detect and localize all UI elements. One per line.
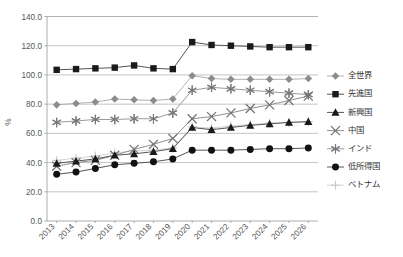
data-point-circle [266,145,273,152]
legend-item-先進国[interactable]: 先進国 [327,88,372,98]
data-point-diamond [246,76,254,84]
data-point-plus [331,181,340,190]
legend-item-全世界[interactable]: 全世界 [327,70,373,80]
series-ベトナム [52,117,313,165]
data-point-circle [111,161,118,168]
cropped-header-text [0,0,403,5]
legend-label: 先進国 [348,88,372,98]
data-point-square [286,44,292,50]
data-point-diamond [53,101,61,109]
data-point-square [247,43,253,49]
x-tick-label: 2014 [57,222,77,242]
data-point-x [246,104,255,113]
data-point-diamond [285,76,293,84]
legend-label: インド [348,143,372,153]
data-point-circle [208,147,215,154]
data-point-diamond [266,76,274,84]
y-axis-title: % [4,118,13,125]
legend-item-新興国[interactable]: 新興国 [327,107,372,117]
x-tick-label: 2022 [212,222,232,242]
data-point-diamond [111,95,119,103]
x-tick-label: 2016 [95,222,115,242]
x-tick-label: 2018 [134,222,154,242]
data-point-square [189,39,195,45]
data-point-square [112,64,118,70]
y-tick-label: 140.0 [22,13,43,22]
data-point-diamond [227,76,235,84]
legend-item-低所得国[interactable]: 低所得国 [327,161,380,171]
x-tick-label: 2024 [250,222,270,242]
legend-label: 新興国 [348,107,372,117]
legend-label: 全世界 [348,70,373,80]
data-point-x [265,100,274,109]
x-tick-label: 2023 [231,222,251,242]
data-point-circle [189,147,196,154]
data-point-diamond [208,75,216,83]
legend-item-中国[interactable]: 中国 [327,125,364,135]
series-新興国 [53,118,313,167]
data-point-square [92,65,98,71]
data-point-square [73,66,79,72]
y-axis-tick-labels: 140.0120.0100.080.060.040.020.00.0 [22,13,43,227]
data-point-circle [53,171,60,178]
data-point-circle [247,146,254,153]
line-chart: 140.0120.0100.080.060.040.020.00.0 20132… [0,0,403,257]
data-point-square [305,44,311,50]
data-point-x [168,134,177,143]
y-tick-label: 0.0 [31,217,43,226]
x-tick-label: 2021 [192,222,212,242]
y-tick-label: 40.0 [26,159,42,168]
data-point-square [131,62,137,68]
data-point-circle [92,165,99,172]
data-point-square [208,42,214,48]
series-先進国 [53,39,311,73]
data-point-square [170,66,176,72]
x-tick-label: 2020 [173,222,193,242]
legend-item-インド[interactable]: インド [327,143,372,154]
data-point-diamond [130,96,138,104]
data-point-diamond [305,75,313,83]
y-tick-label: 100.0 [22,71,43,80]
data-point-circle [332,164,339,171]
y-tick-label: 60.0 [26,129,42,138]
x-tick-label: 2026 [289,222,309,242]
data-point-diamond [150,97,158,105]
data-point-square [332,91,338,97]
data-point-x [226,108,235,117]
data-point-circle [150,158,157,165]
y-tick-label: 80.0 [26,100,42,109]
y-axis-title-text: % [4,118,13,125]
data-series-layer [52,39,313,178]
legend-item-ベトナム[interactable]: ベトナム [327,179,380,189]
data-point-circle [169,155,176,162]
series-インド [53,83,313,128]
x-axis-tick-labels: 2013201420152016201720182019202020212022… [37,221,308,241]
y-tick-label: 20.0 [26,188,42,197]
chart-container: 140.0120.0100.080.060.040.020.00.0 20132… [0,0,403,257]
data-point-square [53,67,59,73]
data-point-circle [131,160,138,167]
y-tick-label: 120.0 [22,42,43,51]
legend-label: 中国 [348,125,364,135]
x-tick-label: 2019 [153,222,173,242]
x-tick-label: 2015 [76,222,96,242]
data-point-circle [73,169,80,176]
x-tick-label: 2025 [270,222,290,242]
data-point-square [266,44,272,50]
data-point-diamond [332,72,340,80]
chart-legend: 全世界先進国新興国中国インド低所得国ベトナム [327,70,380,189]
x-tick-label: 2017 [115,222,135,242]
series-中国 [52,92,313,171]
legend-label: 低所得国 [348,161,380,171]
data-point-square [228,43,234,49]
data-point-diamond [92,98,100,106]
data-point-circle [305,144,312,151]
data-point-square [150,65,156,71]
data-point-circle [285,145,292,152]
data-point-circle [227,147,234,154]
legend-label: ベトナム [348,179,380,189]
data-point-diamond [72,100,80,108]
